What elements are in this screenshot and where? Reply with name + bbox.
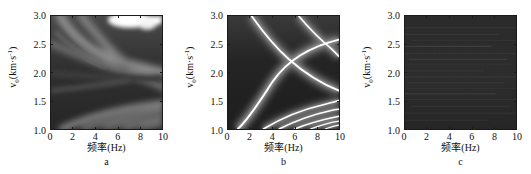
y-tick-1-5: 1.5 [34, 96, 47, 107]
x-tick-6: 6 [469, 131, 474, 142]
y-tick-1-5: 1.5 [211, 96, 224, 107]
x-tick-0: 0 [225, 131, 230, 142]
panel-c-letter: c [404, 156, 517, 167]
panel-c-plot-area [404, 15, 517, 130]
y-tick-1-5: 1.5 [388, 96, 401, 107]
y-axis-subscript: 0 [190, 79, 198, 83]
x-tick-2: 2 [70, 131, 75, 142]
y-axis-paren: ) [7, 47, 18, 50]
y-axis-paren: ) [184, 47, 195, 50]
panel-c-y-tick-labels: 1.0 1.5 2.0 2.5 3.0 [378, 15, 402, 130]
y-tick-2-5: 2.5 [34, 38, 47, 49]
x-tick-2: 2 [424, 131, 429, 142]
y-tick-3-0: 3.0 [211, 10, 224, 21]
x-tick-10: 10 [335, 131, 345, 142]
y-tick-2-0: 2.0 [211, 67, 224, 78]
y-tick-1-0: 1.0 [388, 125, 401, 136]
panel-a-x-axis-title: 频率(Hz) [50, 142, 163, 153]
panel-c-y-axis-title: v0(km·s-1) [359, 31, 377, 103]
x-tick-8: 8 [492, 131, 497, 142]
y-axis-exponent: -1 [360, 50, 368, 56]
panel-a-y-axis-title: v0(km·s-1) [5, 31, 23, 103]
y-tick-2-5: 2.5 [388, 38, 401, 49]
dispersion-spectra-figure: 0 2 4 6 8 10 1.0 1.5 2.0 2.5 3.0 频率(Hz) … [0, 0, 531, 174]
panel-a-heatmap [51, 16, 162, 129]
panel-a: 0 2 4 6 8 10 1.0 1.5 2.0 2.5 3.0 频率(Hz) … [0, 0, 177, 174]
y-axis-unit: (km·s [7, 56, 18, 79]
y-tick-3-0: 3.0 [388, 10, 401, 21]
panel-b: 0 2 4 6 8 10 1.0 1.5 2.0 2.5 3.0 频率(Hz) … [177, 0, 354, 174]
x-tick-0: 0 [48, 131, 53, 142]
panel-a-letter: a [50, 156, 163, 167]
x-tick-10: 10 [512, 131, 522, 142]
y-tick-2-0: 2.0 [388, 67, 401, 78]
y-axis-symbol: v [184, 83, 195, 88]
y-axis-symbol: v [361, 83, 372, 88]
x-tick-2: 2 [247, 131, 252, 142]
y-tick-3-0: 3.0 [34, 10, 47, 21]
panel-b-letter: b [227, 156, 340, 167]
panel-c: 0 2 4 6 8 10 1.0 1.5 2.0 2.5 3.0 频率(Hz) … [354, 0, 531, 174]
panel-b-y-tick-labels: 1.0 1.5 2.0 2.5 3.0 [201, 15, 225, 130]
y-axis-exponent: -1 [6, 50, 14, 56]
y-axis-paren: ) [361, 47, 372, 50]
y-tick-1-0: 1.0 [34, 125, 47, 136]
x-tick-6: 6 [292, 131, 297, 142]
x-tick-8: 8 [138, 131, 143, 142]
panel-a-plot-area [50, 15, 163, 130]
y-axis-unit: (km·s [361, 56, 372, 79]
x-tick-8: 8 [315, 131, 320, 142]
panel-a-y-tick-labels: 1.0 1.5 2.0 2.5 3.0 [24, 15, 48, 130]
y-tick-2-5: 2.5 [211, 38, 224, 49]
panel-b-heatmap [228, 16, 339, 129]
y-axis-exponent: -1 [183, 50, 191, 56]
panel-c-heatmap [405, 16, 516, 129]
y-axis-subscript: 0 [367, 79, 375, 83]
x-tick-10: 10 [158, 131, 168, 142]
x-tick-4: 4 [93, 131, 98, 142]
panel-c-x-axis-title: 频率(Hz) [404, 142, 517, 153]
y-axis-unit: (km·s [184, 56, 195, 79]
x-tick-4: 4 [447, 131, 452, 142]
x-tick-0: 0 [402, 131, 407, 142]
y-axis-symbol: v [7, 83, 18, 88]
panel-b-y-axis-title: v0(km·s-1) [182, 31, 200, 103]
panel-b-x-axis-title: 频率(Hz) [227, 142, 340, 153]
panel-b-plot-area [227, 15, 340, 130]
x-tick-4: 4 [270, 131, 275, 142]
x-tick-6: 6 [115, 131, 120, 142]
y-axis-subscript: 0 [13, 79, 21, 83]
y-tick-1-0: 1.0 [211, 125, 224, 136]
y-tick-2-0: 2.0 [34, 67, 47, 78]
